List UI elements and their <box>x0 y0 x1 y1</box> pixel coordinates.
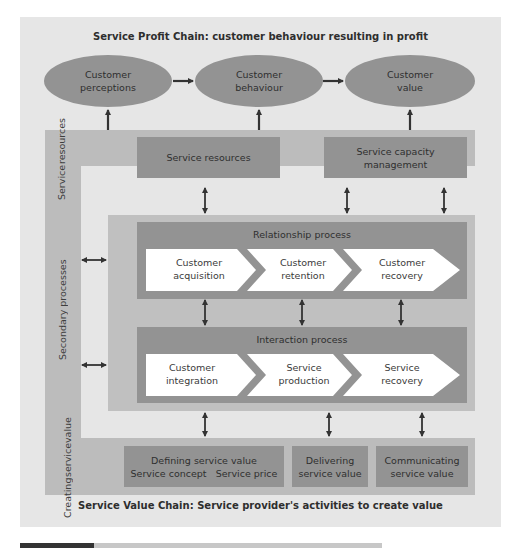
footer-bar-dark <box>20 543 94 548</box>
chevron-text: production <box>278 375 329 386</box>
chevron-text: recovery <box>381 270 423 281</box>
diagram-graphics: Customer acquisition Customer retention … <box>0 0 521 548</box>
chevron-text: integration <box>166 375 218 386</box>
interaction-chevrons: Customer integration Service production … <box>146 354 460 396</box>
chevron-text: retention <box>281 270 324 281</box>
relationship-chevrons: Customer acquisition Customer retention … <box>146 249 460 291</box>
chevron-text: Customer <box>169 362 215 373</box>
chevron-text: acquisition <box>173 270 225 281</box>
footer-bar-light <box>94 543 382 548</box>
chevron-text: Customer <box>176 257 222 268</box>
chevron-text: Service <box>384 362 419 373</box>
chevron-text: Customer <box>379 257 425 268</box>
chevron-text: Customer <box>280 257 326 268</box>
chevron-text: Service <box>286 362 321 373</box>
chevron-text: recovery <box>381 375 423 386</box>
